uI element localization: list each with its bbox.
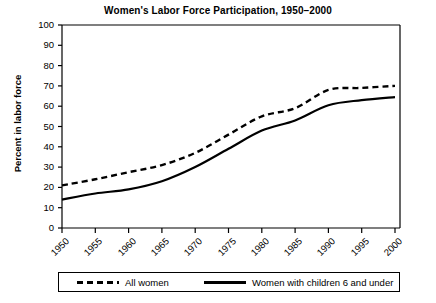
data-line-all-women	[62, 86, 395, 185]
legend-swatch-dashed-icon	[77, 278, 119, 286]
legend-swatch-solid-icon	[204, 278, 246, 286]
legend-entry-all-women: All women	[77, 273, 169, 291]
chart-figure: Women's Labor Force Participation, 1950–…	[0, 0, 436, 303]
chart-legend: All women Women with children 6 and unde…	[58, 272, 400, 292]
data-line-women-with-children-6-and-under	[62, 97, 395, 200]
legend-label-all-women: All women	[125, 277, 169, 288]
data-series-group	[62, 86, 395, 200]
axes-lines	[62, 25, 400, 228]
x-axis-tick-marks	[62, 228, 395, 233]
legend-entry-women-with-children: Women with children 6 and under	[204, 273, 393, 291]
legend-label-women-with-children: Women with children 6 and under	[252, 277, 393, 288]
plot-area	[0, 0, 436, 303]
